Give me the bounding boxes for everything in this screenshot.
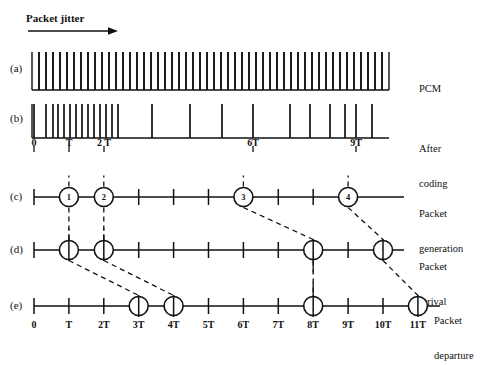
packet-marker-number: 2 — [102, 192, 106, 202]
row-e-tick-label: 4T — [168, 319, 180, 330]
row-b-tick-label: 0 — [32, 137, 37, 148]
row-e-tick-label: 2T — [98, 319, 110, 330]
row-e-tick-label: 8T — [307, 319, 319, 330]
packet-flow-connector — [69, 261, 139, 296]
row-e-tick-label: 3T — [133, 319, 145, 330]
row-e-tick-label: 6T — [238, 319, 250, 330]
row-e-tick-label: 7T — [272, 319, 284, 330]
row-e-tick-label: 0 — [32, 319, 37, 330]
row-e-tick-label: 11T — [410, 319, 426, 330]
row-b-tick-label: 6T — [247, 137, 259, 148]
packet-flow-connector — [243, 208, 313, 240]
packet-flow-connector — [348, 208, 383, 240]
row-b-tick-label: T — [66, 137, 73, 148]
row-b-tick-label: 2 T — [97, 137, 111, 148]
packet-flow-connector — [383, 261, 418, 296]
row-e-tick-label: 5T — [203, 319, 215, 330]
packet-flow-connector — [104, 261, 174, 296]
row-e-tick-label: 10T — [375, 319, 392, 330]
packet-marker-number: 4 — [346, 192, 351, 202]
row-e-tick-label: T — [66, 319, 73, 330]
row-e-tick-label: 9T — [342, 319, 354, 330]
packet-marker-number: 3 — [241, 192, 245, 202]
packet-marker-number: 1 — [67, 192, 71, 202]
right-arrow-icon — [108, 27, 118, 35]
row-b-tick-label: 9T — [350, 137, 362, 148]
